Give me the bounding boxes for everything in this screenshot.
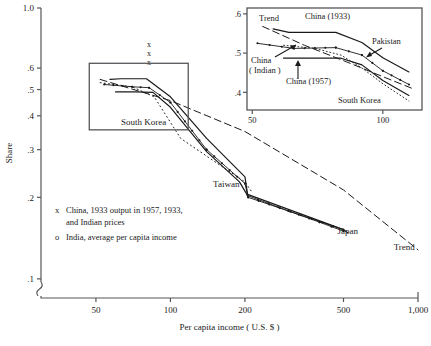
main-marker-china-indian- [221,162,223,164]
main-marker-japan [318,221,320,223]
legend-marker-1: o [55,232,59,242]
x-tick-label-1: 100 [164,305,178,315]
main-line-japan [248,196,344,232]
x-marker-2: x [147,58,151,67]
inset-label-china-indian-1: China [251,55,272,65]
legend-text-0-line1: China, 1933 output in 1957, 1933, [66,205,183,215]
main-marker-china-indian- [131,86,133,88]
y-tick-label-0: 1.0 [23,3,35,13]
main-marker-japan [298,214,300,216]
main-marker-china-indian- [184,120,186,122]
y-tick-label-3: .4 [27,111,34,121]
main-marker-japan [277,206,279,208]
axis-break-mark [37,282,42,296]
y-tick-label-5: .2 [27,193,34,203]
annotation-south-korea: South Korea [121,117,166,127]
inset-marker-china-indian- [256,42,258,44]
x-tick-label-2: 200 [238,305,252,315]
legend-text-0-line2: and Indian prices [66,217,125,227]
main-marker-japan [247,195,249,197]
main-marker-china-indian- [159,94,161,96]
main-marker-japan [330,226,332,228]
annotation-taiwan: Taiwan [213,179,240,189]
main-marker-china-indian- [177,111,179,113]
inset-y-tick-label-1: .5 [235,48,241,58]
inset-marker-china-indian- [324,47,326,49]
x-axis-line [41,296,418,298]
inset-y-tick-label-0: .6 [235,9,241,19]
main-marker-china-indian- [213,155,215,157]
inset-marker-china-indian- [408,83,410,85]
inset-x-tick-label-1: 100 [376,115,389,125]
x-tick-label-3: 500 [337,305,351,315]
main-marker-japan [308,217,310,219]
inset-marker-china-indian- [390,74,392,76]
main-marker-japan [257,198,259,200]
y-tick-label-1: .6 [27,63,34,73]
inset-label-trend: Trend [259,13,280,23]
y-tick-label-2: .5 [27,85,34,95]
inset-label-china-1933: China (1933) [305,11,350,21]
main-line-south-korea [100,83,253,194]
inset-marker-china-indian- [269,44,271,46]
x-tick-label-0: 50 [91,305,101,315]
inset-marker-china-indian- [399,79,401,81]
legend-text-1-line1: India, average per capita income [66,232,177,242]
annotation-japan: Japan [337,226,358,236]
main-marker-china-indian- [191,130,193,132]
inset-label-pakistan: Pakistan [372,36,402,46]
inset-frame [247,8,422,110]
x-tick-label-4: 1,000 [408,305,429,315]
main-marker-japan [267,202,269,204]
inset-label-south-korea: South Korea [338,95,381,105]
inset-x-tick-label-0: 50 [248,115,257,125]
inset-label-china-indian-2: ( Indian ) [249,65,281,75]
inset-marker-china-indian- [335,47,337,49]
main-marker-china-indian- [140,86,142,88]
inset-marker-china-indian- [371,62,373,64]
figure-container: 1.0.6.5.4.3.2.1501002005001,000Per capit… [0,0,431,346]
inset-y-tick-label-2: .4 [235,88,242,98]
inset-marker-china-indian- [348,50,350,52]
annotation-trend: Trend [394,242,416,252]
chart-canvas: 1.0.6.5.4.3.2.1501002005001,000Per capit… [0,0,431,346]
main-marker-china-indian- [148,87,150,89]
main-marker-japan [288,210,290,212]
main-marker-china-indian- [169,101,171,103]
x-axis-title: Per capita income ( U.S. $ ) [180,322,280,332]
legend-marker-0: x [55,205,60,215]
y-axis-title: Share [4,143,14,164]
inset-marker-china-indian- [361,54,363,56]
inset-marker-china-indian- [382,70,384,72]
inset-marker-china-indian- [281,46,283,48]
x-marker-0: x [147,40,151,49]
inset-label-china-1957: China (1957) [286,76,331,86]
y-tick-label-6: .1 [27,274,34,284]
y-tick-label-4: .3 [27,145,34,155]
